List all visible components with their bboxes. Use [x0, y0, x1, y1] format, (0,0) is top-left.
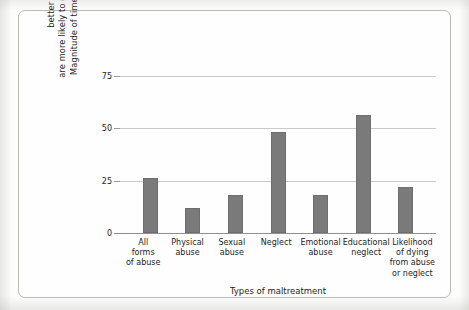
- x-label-likelihood-of-dying: Likelihood of dying from abuse or neglec…: [390, 238, 435, 279]
- y-tick-label-0: 0: [107, 229, 112, 238]
- x-label-line: neglect: [343, 248, 390, 258]
- y-tick-label-75: 75: [102, 71, 112, 80]
- x-label-line: of dying: [390, 248, 435, 258]
- x-label-all-forms-of-abuse: All forms of abuse: [121, 238, 165, 279]
- x-label-line: abuse: [210, 248, 254, 258]
- y-axis-title-line-1: Magnitude of times that children from po…: [69, 0, 81, 75]
- x-label-educational-neglect: Educational neglect: [343, 238, 390, 279]
- x-label-line: Neglect: [254, 238, 298, 248]
- plot-area: 75 50 25 0: [120, 66, 436, 234]
- bar-sexual-abuse[interactable]: [228, 195, 243, 233]
- x-label-line: Physical: [165, 238, 209, 248]
- bar-slot-emotional-abuse: [299, 66, 342, 233]
- x-label-line: Sexual: [210, 238, 254, 248]
- x-label-sexual-abuse: Sexual abuse: [210, 238, 254, 279]
- x-label-line: forms: [121, 248, 165, 258]
- x-label-physical-abuse: Physical abuse: [165, 238, 209, 279]
- x-label-neglect: Neglect: [254, 238, 298, 279]
- y-tick-label-50: 50: [102, 124, 112, 133]
- bar-slot-all-forms-of-abuse: [129, 66, 172, 233]
- x-label-line: Likelihood: [390, 238, 435, 248]
- y-tick-label-25: 25: [102, 176, 112, 185]
- bar-neglect[interactable]: [271, 132, 286, 233]
- y-axis-title: Magnitude of times that children from po…: [45, 0, 81, 61]
- bar-educational-neglect[interactable]: [356, 115, 371, 233]
- bar-slot-sexual-abuse: [214, 66, 257, 233]
- x-label-line: Emotional: [298, 238, 342, 248]
- bar-slot-neglect: [257, 66, 300, 233]
- x-label-line: abuse: [298, 248, 342, 258]
- scanned-page: Magnitude of times that children from po…: [0, 0, 469, 310]
- bar-likelihood-of-dying[interactable]: [398, 187, 413, 233]
- x-label-line: All: [121, 238, 165, 248]
- bar-emotional-abuse[interactable]: [313, 195, 328, 233]
- bar-physical-abuse[interactable]: [185, 208, 200, 233]
- x-label-line: from abuse: [390, 258, 435, 268]
- bar-all-forms-of-abuse[interactable]: [143, 178, 158, 233]
- bar-slot-likelihood-of-dying: [384, 66, 427, 233]
- x-label-line: or neglect: [390, 269, 435, 279]
- bar-slot-physical-abuse: [172, 66, 215, 233]
- x-label-line: abuse: [165, 248, 209, 258]
- bar-slot-educational-neglect: [342, 66, 385, 233]
- x-label-line: of abuse: [121, 258, 165, 268]
- x-axis-line: 0: [114, 233, 436, 234]
- x-label-emotional-abuse: Emotional abuse: [298, 238, 342, 279]
- y-axis-title-line-2: are more likely to experience abuse than…: [57, 0, 69, 78]
- x-axis-labels: All forms of abuse Physical abuse Sexual…: [120, 238, 436, 279]
- y-axis-title-line-3: better economic circumstances: [46, 0, 58, 28]
- x-label-line: Educational: [343, 238, 390, 248]
- x-axis-title: Types of maltreatment: [120, 286, 436, 296]
- bar-group: [120, 66, 436, 233]
- figure-frame: Magnitude of times that children from po…: [18, 10, 451, 298]
